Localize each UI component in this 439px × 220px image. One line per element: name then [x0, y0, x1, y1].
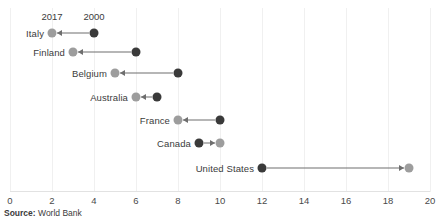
- category-label: Italy: [26, 28, 44, 39]
- connector-line: [267, 168, 404, 169]
- category-label: United States: [196, 163, 254, 174]
- data-point-2017: [48, 29, 57, 38]
- data-point-2017: [111, 69, 120, 78]
- arrow-head: [183, 117, 188, 123]
- connector-line: [78, 52, 131, 53]
- arrow-head: [57, 30, 62, 36]
- data-point-2000: [132, 48, 141, 57]
- source-label: Source:: [4, 208, 36, 218]
- connector-line: [120, 73, 173, 74]
- gridline: [10, 8, 11, 192]
- arrow-head: [120, 70, 125, 76]
- data-point-2000: [195, 139, 204, 148]
- period-annotation: 2017: [41, 11, 62, 22]
- arrow-head: [78, 49, 83, 55]
- x-tick-label: 14: [299, 195, 310, 206]
- data-point-2017: [216, 139, 225, 148]
- data-point-2017: [174, 116, 183, 125]
- plot-area: ItalyFinlandBelgiumAustraliaFranceCanada…: [0, 0, 439, 192]
- gridline: [304, 8, 305, 192]
- x-tick-label: 12: [257, 195, 268, 206]
- x-tick-label: 6: [133, 195, 138, 206]
- x-tick-label: 8: [175, 195, 180, 206]
- gridline: [178, 8, 179, 192]
- category-label: Canada: [157, 138, 191, 149]
- category-label: Finland: [33, 47, 65, 58]
- category-label: Belgium: [72, 68, 107, 79]
- data-point-2017: [132, 93, 141, 102]
- data-point-2000: [90, 29, 99, 38]
- data-point-2017: [69, 48, 78, 57]
- category-label: Australia: [90, 92, 128, 103]
- data-point-2017: [405, 164, 414, 173]
- x-tick-label: 0: [7, 195, 12, 206]
- gridline: [346, 8, 347, 192]
- period-annotation: 2000: [83, 11, 104, 22]
- source-note: Source: World Bank: [4, 208, 82, 218]
- x-tick-label: 2: [49, 195, 54, 206]
- gridline: [430, 8, 431, 192]
- x-tick-label: 20: [425, 195, 436, 206]
- x-tick-label: 16: [341, 195, 352, 206]
- arrow-head: [399, 165, 404, 171]
- arrow-head: [210, 140, 215, 146]
- x-tick-label: 10: [215, 195, 226, 206]
- data-point-2000: [153, 93, 162, 102]
- category-label: France: [140, 115, 170, 126]
- dumbbell-chart: ItalyFinlandBelgiumAustraliaFranceCanada…: [0, 0, 439, 220]
- x-tick-label: 18: [383, 195, 394, 206]
- data-point-2000: [216, 116, 225, 125]
- x-axis-line: [10, 191, 430, 192]
- data-point-2000: [258, 164, 267, 173]
- arrow-head: [141, 94, 146, 100]
- gridline: [388, 8, 389, 192]
- data-point-2000: [174, 69, 183, 78]
- x-tick-label: 4: [91, 195, 96, 206]
- source-value: World Bank: [36, 208, 82, 218]
